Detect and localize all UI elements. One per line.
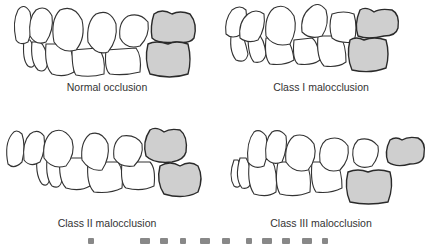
- teeth-diagram-class-2: [0, 122, 214, 222]
- panel-class-1-malocclusion: Class I malocclusion: [214, 0, 428, 122]
- caption-class-2-malocclusion: Class II malocclusion: [0, 217, 214, 229]
- panel-class-3-malocclusion: Class III malocclusion: [214, 122, 428, 244]
- teeth-diagram-class-3: [214, 122, 428, 222]
- panel-normal-occlusion: Normal occlusion: [0, 0, 214, 122]
- caption-class-1-malocclusion: Class I malocclusion: [214, 81, 428, 93]
- caption-normal-occlusion: Normal occlusion: [0, 81, 214, 93]
- cropped-text-line: [0, 238, 429, 244]
- panel-class-2-malocclusion: Class II malocclusion: [0, 122, 214, 244]
- caption-class-3-malocclusion: Class III malocclusion: [214, 217, 428, 229]
